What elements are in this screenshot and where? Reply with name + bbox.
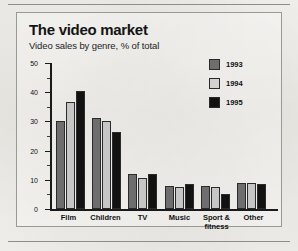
bar <box>92 118 101 209</box>
y-axis-tick: 20 <box>45 151 50 152</box>
x-axis-label: Music <box>162 213 198 231</box>
x-axis-label-line: Children <box>88 213 124 222</box>
bar <box>165 186 174 209</box>
bar <box>201 186 210 209</box>
y-axis-tick: 40 <box>45 92 50 93</box>
y-axis-minor-tick <box>47 107 50 108</box>
bar <box>247 183 256 209</box>
x-axis-label-line: Other <box>236 213 272 222</box>
bar <box>237 183 246 209</box>
bar <box>221 194 230 209</box>
bar-group <box>92 63 121 209</box>
chart-title: The video market <box>29 21 148 38</box>
x-axis-labels: FilmChildrenTVMusicSport &fitnessOther <box>50 213 272 231</box>
y-axis-tick-label: 20 <box>30 147 38 154</box>
bar-group <box>201 63 230 209</box>
x-axis-label-line: fitness <box>199 222 235 231</box>
y-axis-tick: 0 <box>45 209 50 210</box>
chart-subtitle: Video sales by genre, % of total <box>29 40 159 51</box>
x-axis-label: Film <box>51 213 87 231</box>
bar <box>56 121 65 209</box>
x-axis-line <box>50 209 278 211</box>
bar <box>175 187 184 209</box>
y-axis-tick: 50 <box>45 63 50 64</box>
bar-series-container <box>52 63 270 209</box>
bar-group <box>128 63 157 209</box>
bar <box>138 178 147 209</box>
y-axis-tick-label: 0 <box>34 206 38 213</box>
x-axis-label-line: Film <box>51 213 87 222</box>
bar <box>102 121 111 209</box>
y-axis-tick-label: 40 <box>30 89 38 96</box>
y-axis-minor-tick <box>47 194 50 195</box>
x-axis-label-line: Music <box>162 213 198 222</box>
bar-group <box>56 63 85 209</box>
x-axis-label: Children <box>88 213 124 231</box>
y-axis-minor-tick <box>47 136 50 137</box>
bar <box>76 91 85 209</box>
plot-area: 01020304050 <box>50 63 270 211</box>
y-axis-tick: 10 <box>45 180 50 181</box>
y-axis-tick: 30 <box>45 121 50 122</box>
x-axis-label-line: Sport & <box>199 213 235 222</box>
bar <box>112 132 121 209</box>
x-axis-label-line: TV <box>125 213 161 222</box>
y-axis-minor-tick <box>47 165 50 166</box>
x-axis-label: TV <box>125 213 161 231</box>
chart-panel: The video market Video sales by genre, %… <box>16 12 282 227</box>
bar <box>211 187 220 209</box>
bar <box>148 174 157 209</box>
x-axis-label: Other <box>236 213 272 231</box>
y-axis-tick-label: 50 <box>30 60 38 67</box>
y-axis-minor-tick <box>47 78 50 79</box>
y-axis-tick-label: 30 <box>30 118 38 125</box>
bar-group <box>165 63 194 209</box>
bar-group <box>237 63 266 209</box>
x-axis-label: Sport &fitness <box>199 213 235 231</box>
page-rule-bottom <box>8 241 290 242</box>
bar <box>128 174 137 209</box>
bar <box>66 102 75 209</box>
bar <box>257 184 266 209</box>
bar <box>185 184 194 209</box>
page-rule-top <box>8 4 290 5</box>
y-axis-tick-label: 10 <box>30 176 38 183</box>
